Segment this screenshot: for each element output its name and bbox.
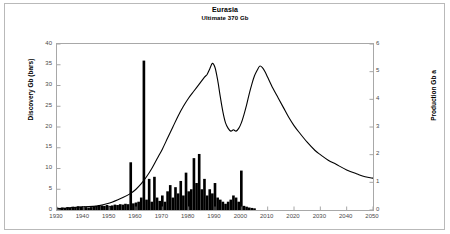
discovery-bar [100, 205, 103, 210]
discovery-bar [237, 202, 240, 210]
discovery-bar [137, 202, 140, 210]
discovery-bar [185, 173, 188, 210]
discovery-bar [85, 207, 88, 210]
discovery-bar [150, 202, 153, 210]
discovery-bar [111, 205, 114, 210]
y-axis-left-tick-label: 15 [30, 143, 52, 150]
y-axis-left-tick-label: 35 [30, 60, 52, 67]
discovery-bar [214, 183, 217, 210]
discovery-bar [248, 208, 251, 210]
discovery-bar [172, 198, 175, 210]
chart-screenshot: Eurasia Ultimate 370 Gb Discovery Gb (ba… [0, 0, 450, 234]
y-axis-right-title: Production Gb a [430, 46, 437, 146]
discovery-bar [245, 207, 248, 210]
discovery-bar [158, 201, 161, 210]
y-axis-right-tick-label: 0 [376, 206, 396, 213]
discovery-bar [114, 205, 117, 210]
discovery-bar [177, 193, 180, 210]
discovery-bar [156, 198, 159, 210]
discovery-bar [122, 205, 125, 210]
discovery-bar [87, 208, 90, 210]
discovery-bar [140, 198, 143, 210]
discovery-bar [203, 179, 206, 210]
discovery-bar [179, 181, 182, 210]
discovery-bar [153, 177, 156, 210]
discovery-bar [90, 207, 93, 210]
discovery-bar [227, 202, 230, 210]
plot-canvas [57, 44, 373, 210]
discovery-bar [166, 191, 169, 210]
y-axis-right-tick-label: 4 [376, 95, 396, 102]
y-axis-left-tick-label: 10 [30, 164, 52, 171]
y-axis-right-tick-label: 6 [376, 40, 396, 47]
discovery-bar [195, 183, 198, 210]
discovery-bar [169, 185, 172, 210]
y-axis-left-tick-label: 20 [30, 123, 52, 130]
discovery-bar [119, 204, 122, 210]
discovery-bar [240, 171, 243, 210]
y-axis-left-tick-label: 0 [30, 206, 52, 213]
discovery-bar [206, 195, 209, 210]
discovery-bar [232, 195, 235, 210]
discovery-bar [190, 189, 193, 210]
discovery-bar [253, 208, 256, 210]
chart-subtitle: Ultimate 370 Gb [0, 14, 450, 22]
y-axis-left-tick-label: 25 [30, 102, 52, 109]
discovery-bar [127, 204, 130, 210]
y-axis-left-tick-label: 30 [30, 81, 52, 88]
discovery-bar [224, 204, 227, 210]
y-axis-right-tick-label: 5 [376, 67, 396, 74]
discovery-bar [145, 200, 148, 210]
discovery-bar [148, 179, 151, 210]
discovery-bar [182, 195, 185, 210]
y-axis-left-tick-label: 40 [30, 40, 52, 47]
discovery-bar [143, 61, 146, 210]
discovery-bar [129, 162, 132, 210]
discovery-bar [198, 154, 201, 210]
discovery-bar [229, 200, 232, 210]
discovery-bar [164, 202, 167, 210]
y-axis-right-tick-label: 2 [376, 150, 396, 157]
discovery-bar [174, 187, 177, 210]
chart-title: Eurasia [0, 5, 450, 14]
x-axis-tick-label: 2050 [357, 213, 387, 220]
discovery-bar [219, 200, 222, 210]
discovery-bar [222, 202, 225, 210]
discovery-bar [208, 189, 211, 210]
y-axis-right-tick-label: 3 [376, 123, 396, 130]
discovery-bar [124, 204, 127, 210]
discovery-bar [132, 203, 135, 210]
discovery-bar [235, 198, 238, 210]
discovery-bar [211, 193, 214, 210]
discovery-bars [57, 61, 256, 210]
discovery-bar [103, 206, 106, 210]
discovery-bar [106, 205, 109, 210]
discovery-bar [216, 198, 219, 210]
y-axis-right-tick-label: 1 [376, 178, 396, 185]
discovery-bar [116, 205, 119, 210]
discovery-bar [201, 189, 204, 210]
discovery-bar [243, 206, 246, 210]
plot-area [56, 43, 374, 211]
y-axis-left-tick-label: 5 [30, 185, 52, 192]
discovery-bar [193, 158, 196, 210]
discovery-bar [251, 208, 254, 210]
